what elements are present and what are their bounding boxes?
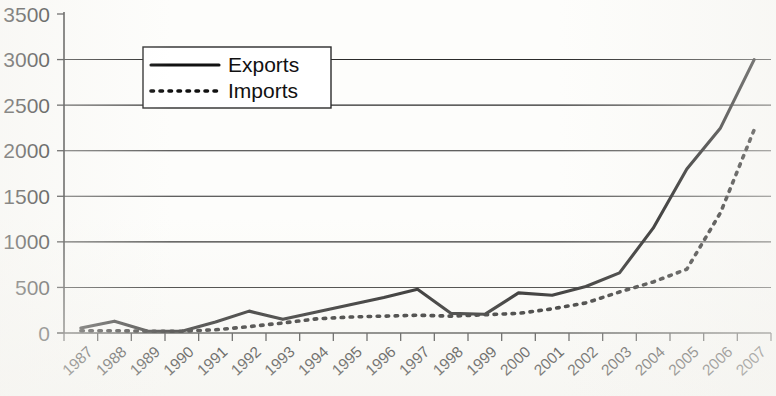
y-tick-label: 1500 bbox=[3, 185, 50, 208]
x-tick-label: 1988 bbox=[93, 343, 130, 379]
x-tick-label: 2007 bbox=[732, 343, 769, 379]
y-tick-marks-group bbox=[57, 14, 64, 333]
x-tick-label: 1994 bbox=[295, 343, 332, 379]
y-tick-label: 500 bbox=[15, 276, 50, 299]
x-tick-label: 1987 bbox=[59, 343, 96, 379]
x-tick-label: 2006 bbox=[699, 343, 736, 379]
x-tick-label: 1992 bbox=[227, 343, 264, 379]
x-tick-label: 2001 bbox=[530, 343, 567, 379]
y-axis-tick-labels: 0500100015002000250030003500 bbox=[3, 3, 50, 345]
chart-plot-area: 0500100015002000250030003500 19871988198… bbox=[0, 0, 776, 396]
x-tick-label: 1993 bbox=[261, 343, 298, 379]
x-tick-label: 1996 bbox=[362, 343, 399, 379]
y-tick-label: 3000 bbox=[3, 48, 50, 71]
x-tick-label: 1999 bbox=[463, 343, 500, 379]
x-tick-marks-group bbox=[64, 333, 771, 341]
y-tick-label: 2000 bbox=[3, 139, 50, 162]
x-tick-label: 1989 bbox=[126, 343, 163, 379]
chart-legend: Exports Imports bbox=[143, 47, 331, 108]
y-tick-label: 3500 bbox=[3, 3, 50, 26]
x-axis-tick-labels: 1987198819891990199119921993199419951996… bbox=[59, 343, 769, 379]
x-tick-label: 1997 bbox=[396, 343, 433, 379]
x-tick-label: 2002 bbox=[564, 343, 601, 379]
legend-label-imports: Imports bbox=[228, 79, 298, 102]
y-tick-label: 0 bbox=[38, 322, 50, 345]
legend-label-exports: Exports bbox=[228, 53, 299, 76]
line-chart: 0500100015002000250030003500 19871988198… bbox=[0, 0, 776, 396]
x-tick-label: 1990 bbox=[160, 343, 197, 379]
x-tick-label: 2004 bbox=[631, 343, 668, 379]
x-tick-label: 2000 bbox=[497, 343, 534, 379]
x-tick-label: 2005 bbox=[665, 343, 702, 379]
y-tick-label: 1000 bbox=[3, 230, 50, 253]
x-tick-label: 1998 bbox=[429, 343, 466, 379]
x-tick-label: 1995 bbox=[328, 343, 365, 379]
x-tick-label: 1991 bbox=[194, 343, 231, 379]
x-tick-label: 2003 bbox=[598, 343, 635, 379]
y-tick-label: 2500 bbox=[3, 94, 50, 117]
